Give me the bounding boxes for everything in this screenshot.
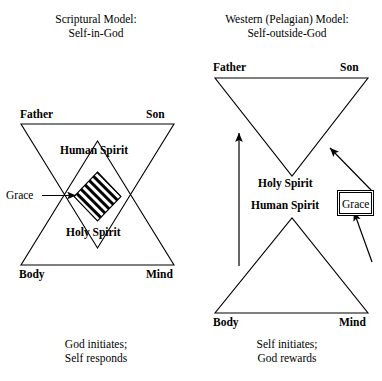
right-label-body: Body: [213, 316, 239, 329]
right-label-holy-spirit: Holy Spirit: [258, 177, 313, 190]
left-label-son: Son: [146, 108, 165, 121]
right-label-mind: Mind: [339, 316, 366, 329]
left-label-mind: Mind: [146, 268, 173, 281]
left-label-human-spirit: Human Spirit: [60, 144, 128, 157]
left-label-grace: Grace: [6, 189, 33, 202]
diagram-vector-layer: [0, 0, 382, 381]
right-label-father: Father: [213, 61, 246, 74]
left-panel-title: Scriptural Model: Self-in-God: [10, 12, 182, 40]
left-panel-caption: God initiates; Self responds: [10, 337, 182, 365]
right-self-to-grace-arrow: [354, 212, 372, 262]
right-label-son: Son: [340, 61, 359, 74]
left-label-father: Father: [20, 108, 53, 121]
right-grace-to-god-arrow: [330, 148, 372, 191]
right-divine-triangle-inverted: [215, 78, 368, 176]
figure-canvas: Scriptural Model: Self-in-God Father Son…: [0, 0, 382, 381]
right-grace-box: Grace: [339, 192, 372, 214]
left-label-body: Body: [19, 268, 45, 281]
right-panel-caption: Self initiates; God rewards: [197, 337, 377, 365]
right-label-grace: Grace: [342, 198, 369, 210]
right-human-triangle-upright: [215, 218, 368, 313]
right-panel-title: Western (Pelagian) Model: Self-outside-G…: [197, 12, 377, 40]
left-label-holy-spirit: Holy Spirit: [66, 226, 121, 239]
left-grace-overlap-rhombus: [74, 172, 121, 221]
right-label-human-spirit: Human Spirit: [251, 199, 319, 212]
